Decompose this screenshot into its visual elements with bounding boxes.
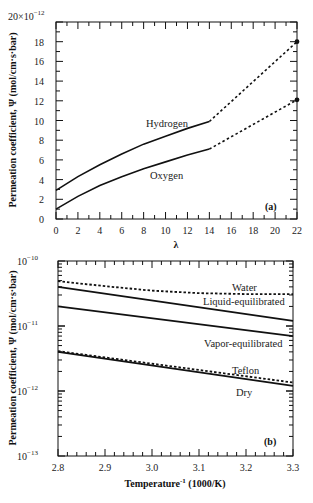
y-tick-label: 10 [34,116,44,127]
x-tick-label: 16 [226,225,236,236]
x-tick-label: 8 [141,225,146,236]
series-extrapolation-oxygen [209,100,297,149]
y-tick-label: 10−11 [17,319,38,332]
series-label-dry: Dry [236,387,253,398]
x-tick-label: 3.3 [287,462,300,473]
data-point-marker [295,97,300,102]
series-label-vapor-equilibrated: Vapor-equilibrated [204,338,283,349]
chart-panel-b: 2.82.93.03.13.23.310−1010−1110−1210−13 W… [7,254,299,490]
x-tick-label: 18 [248,225,258,236]
x-tick-label: 2 [75,225,80,236]
panel-label-a: (a) [265,201,277,213]
y-multiplier-a: 20×10−12 [8,9,45,22]
series-line-oxygen [56,149,209,209]
y-axis-title-b: Permeation coefficient, Ψ (mol/cm·s·bar) [7,271,19,446]
y-tick-label: 2 [39,194,44,205]
series-label-hydrogen: Hydrogen [146,118,189,129]
series-b: WaterLiquid-equilibratedVapor-equilibrat… [58,281,293,398]
x-axis-title-b: Temperature-1 (1000/K) [124,477,225,490]
chart-panel-a: 0246810121416182022024681012141618 Hydro… [7,9,302,250]
x-tick-label: 20 [270,225,280,236]
figure: 0246810121416182022024681012141618 Hydro… [0,0,313,503]
y-tick-label: 14 [34,76,44,87]
series-label-water: Water [232,282,257,293]
x-tick-label: 2.9 [99,462,112,473]
series-line-vapor-equilibrated [58,306,293,336]
tick-labels-a: 0246810121416182022024681012141618 [34,37,302,236]
x-tick-label: 3.1 [193,462,206,473]
axis-ticks-b [58,261,293,456]
y-tick-label: 12 [34,96,44,107]
y-tick-label: 6 [39,155,44,166]
plot-frame-b [58,261,293,456]
x-tick-label: 6 [119,225,124,236]
x-tick-label: 14 [204,225,214,236]
series-label-teflon: Teflon [232,365,260,376]
y-tick-label: 10−10 [17,254,38,267]
y-tick-label: 8 [39,135,44,146]
series-label-liquid-equilibrated: Liquid-equilibrated [203,296,285,307]
x-tick-label: 4 [97,225,102,236]
y-tick-label: 0 [39,214,44,225]
y-tick-label: 16 [34,56,44,67]
x-tick-label: 12 [182,225,192,236]
series-label-oxygen: Oxygen [150,170,184,181]
y-tick-label: 10−12 [17,384,38,397]
series-extrapolation-hydrogen [209,42,297,122]
x-tick-label: 0 [54,225,59,236]
series-a: HydrogenOxygen [56,39,299,209]
panel-label-b: (b) [264,436,276,448]
x-axis-title-a: λ [174,239,179,250]
y-tick-label: 18 [34,37,44,48]
y-tick-label: 10−13 [17,449,38,462]
x-tick-label: 3.2 [240,462,253,473]
y-axis-title-a: Permeation coefficient, Ψ (mol/cm·s·bar) [7,33,19,208]
data-point-marker [295,39,300,44]
x-tick-label: 3.0 [146,462,159,473]
x-tick-label: 2.8 [52,462,65,473]
y-tick-label: 4 [39,175,44,186]
x-tick-label: 10 [161,225,171,236]
x-tick-label: 22 [292,225,302,236]
